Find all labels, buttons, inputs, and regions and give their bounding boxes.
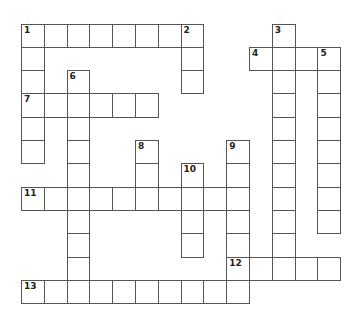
crossword-cell[interactable]	[317, 93, 341, 117]
clue-number: 12	[229, 259, 242, 268]
crossword-cell[interactable]	[67, 210, 91, 234]
crossword-cell[interactable]	[317, 140, 341, 164]
crossword-cell[interactable]	[203, 280, 227, 304]
crossword-cell[interactable]	[67, 140, 91, 164]
crossword-cell[interactable]	[226, 280, 250, 304]
crossword-cell[interactable]	[317, 117, 341, 141]
clue-number: 9	[229, 142, 235, 151]
crossword-cell[interactable]	[135, 187, 159, 211]
crossword-cell[interactable]	[181, 187, 205, 211]
crossword-cell[interactable]: 10	[181, 163, 205, 187]
crossword-cell[interactable]	[181, 47, 205, 71]
crossword-cell[interactable]	[272, 187, 296, 211]
crossword-cell[interactable]	[67, 93, 91, 117]
crossword-cell[interactable]	[135, 280, 159, 304]
crossword-cell[interactable]	[249, 257, 273, 281]
crossword-grid: 12734568912101113	[0, 0, 359, 319]
crossword-cell[interactable]: 1	[21, 24, 45, 48]
crossword-cell[interactable]	[272, 47, 296, 71]
crossword-cell[interactable]	[226, 210, 250, 234]
crossword-cell[interactable]	[67, 187, 91, 211]
crossword-cell[interactable]	[295, 47, 319, 71]
clue-number: 3	[275, 26, 281, 35]
crossword-cell[interactable]	[181, 70, 205, 94]
crossword-cell[interactable]	[135, 163, 159, 187]
crossword-cell[interactable]	[44, 93, 68, 117]
crossword-cell[interactable]	[21, 117, 45, 141]
crossword-cell[interactable]	[317, 163, 341, 187]
crossword-cell[interactable]: 3	[272, 24, 296, 48]
clue-number: 13	[24, 282, 37, 291]
crossword-cell[interactable]: 6	[67, 70, 91, 94]
crossword-cell[interactable]	[158, 24, 182, 48]
crossword-cell[interactable]	[317, 257, 341, 281]
crossword-cell[interactable]	[89, 93, 113, 117]
crossword-cell[interactable]	[112, 280, 136, 304]
crossword-cell[interactable]	[112, 93, 136, 117]
crossword-cell[interactable]	[272, 233, 296, 257]
crossword-cell[interactable]	[112, 24, 136, 48]
crossword-cell[interactable]	[89, 280, 113, 304]
crossword-cell[interactable]	[158, 187, 182, 211]
crossword-cell[interactable]: 11	[21, 187, 45, 211]
crossword-cell[interactable]	[67, 117, 91, 141]
crossword-cell[interactable]	[89, 187, 113, 211]
crossword-cell[interactable]: 12	[226, 257, 250, 281]
crossword-cell[interactable]	[135, 93, 159, 117]
crossword-cell[interactable]	[317, 70, 341, 94]
clue-number: 7	[24, 95, 30, 104]
crossword-cell[interactable]	[272, 93, 296, 117]
crossword-cell[interactable]	[67, 233, 91, 257]
crossword-cell[interactable]	[272, 257, 296, 281]
crossword-cell[interactable]	[272, 117, 296, 141]
crossword-cell[interactable]: 9	[226, 140, 250, 164]
crossword-cell[interactable]	[21, 47, 45, 71]
clue-number: 10	[184, 165, 197, 174]
crossword-cell[interactable]: 5	[317, 47, 341, 71]
crossword-cell[interactable]	[317, 187, 341, 211]
crossword-cell[interactable]	[272, 210, 296, 234]
crossword-cell[interactable]: 4	[249, 47, 273, 71]
crossword-cell[interactable]	[21, 70, 45, 94]
crossword-cell[interactable]	[135, 24, 159, 48]
crossword-cell[interactable]	[226, 233, 250, 257]
crossword-cell[interactable]	[272, 163, 296, 187]
crossword-cell[interactable]	[44, 187, 68, 211]
crossword-cell[interactable]: 8	[135, 140, 159, 164]
crossword-cell[interactable]	[295, 257, 319, 281]
crossword-cell[interactable]: 2	[181, 24, 205, 48]
crossword-cell[interactable]	[317, 210, 341, 234]
crossword-cell[interactable]	[272, 70, 296, 94]
crossword-cell[interactable]	[21, 140, 45, 164]
crossword-cell[interactable]	[226, 163, 250, 187]
crossword-cell[interactable]	[67, 280, 91, 304]
clue-number: 1	[24, 26, 30, 35]
clue-number: 5	[320, 49, 326, 58]
clue-number: 4	[252, 49, 258, 58]
clue-number: 11	[24, 189, 37, 198]
crossword-cell[interactable]: 13	[21, 280, 45, 304]
crossword-cell[interactable]	[67, 257, 91, 281]
crossword-cell[interactable]	[112, 187, 136, 211]
crossword-cell[interactable]	[181, 280, 205, 304]
crossword-cell[interactable]	[272, 140, 296, 164]
clue-number: 6	[70, 72, 76, 81]
crossword-cell[interactable]	[44, 280, 68, 304]
crossword-cell[interactable]	[67, 24, 91, 48]
crossword-cell[interactable]	[203, 187, 227, 211]
clue-number: 8	[138, 142, 144, 151]
crossword-cell[interactable]	[226, 187, 250, 211]
crossword-cell[interactable]	[181, 233, 205, 257]
crossword-cell[interactable]	[158, 280, 182, 304]
crossword-cell[interactable]: 7	[21, 93, 45, 117]
crossword-cell[interactable]	[181, 210, 205, 234]
crossword-cell[interactable]	[67, 163, 91, 187]
clue-number: 2	[184, 26, 190, 35]
crossword-cell[interactable]	[89, 24, 113, 48]
crossword-cell[interactable]	[44, 24, 68, 48]
